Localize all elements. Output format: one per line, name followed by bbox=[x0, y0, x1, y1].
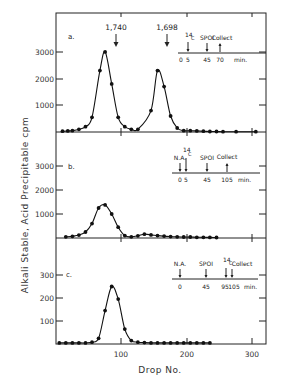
svg-text:SPOI: SPOI bbox=[200, 154, 214, 161]
data-point bbox=[71, 129, 75, 133]
data-point bbox=[123, 125, 127, 129]
data-point bbox=[103, 203, 107, 207]
data-point bbox=[103, 309, 107, 313]
data-point bbox=[77, 233, 81, 237]
data-point bbox=[66, 129, 70, 133]
data-point bbox=[110, 285, 114, 289]
data-point bbox=[195, 341, 199, 345]
panel-a-tag: a. bbox=[68, 33, 75, 41]
data-point bbox=[97, 206, 101, 210]
data-point bbox=[129, 127, 133, 131]
svg-text:45: 45 bbox=[203, 176, 211, 183]
data-point bbox=[110, 212, 114, 216]
svg-text:0: 0 bbox=[179, 56, 183, 63]
peak-label-1698: 1,698 bbox=[156, 23, 178, 32]
data-point bbox=[156, 341, 160, 345]
data-point bbox=[129, 339, 133, 343]
data-point bbox=[149, 341, 153, 345]
data-point bbox=[103, 50, 107, 54]
xtick-100: 100 bbox=[114, 350, 129, 359]
data-point bbox=[84, 230, 88, 234]
data-point bbox=[90, 222, 94, 226]
data-point bbox=[202, 235, 206, 239]
panel-a-timeline-inset: 14 C SPOI Collect 0 5 45 70 min. bbox=[178, 31, 266, 63]
panel-a-series bbox=[61, 50, 258, 134]
panel-a-ytick-1000: 1000 bbox=[35, 101, 54, 110]
arrowhead-icon bbox=[165, 42, 170, 47]
panel-b-timeline-inset: N.A. 14 C SPOI Collect 0 5 45 105 min. bbox=[172, 146, 260, 183]
data-point bbox=[71, 234, 75, 238]
data-point bbox=[110, 82, 114, 86]
y-axis-label: Alkali Stable, Acid Precipitable cpm bbox=[20, 117, 30, 293]
data-point bbox=[77, 127, 81, 131]
data-point bbox=[175, 126, 179, 130]
svg-text:70: 70 bbox=[216, 56, 224, 63]
data-point bbox=[149, 109, 153, 113]
data-point bbox=[169, 114, 173, 118]
data-point bbox=[221, 130, 225, 134]
svg-text:45: 45 bbox=[203, 56, 211, 63]
data-point bbox=[202, 129, 206, 133]
data-point bbox=[208, 236, 212, 240]
svg-text:C: C bbox=[191, 35, 195, 41]
x-axis-label: Drop No. bbox=[138, 365, 181, 375]
svg-text:45: 45 bbox=[202, 283, 210, 290]
data-point bbox=[182, 129, 186, 133]
data-point bbox=[162, 341, 166, 345]
svg-text:N.A.: N.A. bbox=[174, 260, 186, 267]
data-point bbox=[162, 234, 166, 238]
data-point bbox=[156, 69, 160, 73]
panel-b-ytick-2000: 2000 bbox=[35, 186, 54, 195]
peak-label-1740: 1,740 bbox=[105, 23, 127, 32]
svg-text:5: 5 bbox=[186, 56, 190, 63]
panel-b-series bbox=[64, 203, 219, 239]
data-point bbox=[123, 327, 127, 331]
data-point bbox=[215, 236, 219, 240]
svg-text:SPOI: SPOI bbox=[199, 260, 213, 267]
data-point bbox=[175, 341, 179, 345]
data-curve bbox=[63, 52, 256, 132]
data-point bbox=[136, 234, 140, 238]
data-point bbox=[116, 115, 120, 119]
data-point bbox=[57, 341, 61, 345]
data-point bbox=[156, 234, 160, 238]
data-point bbox=[254, 130, 258, 134]
data-point bbox=[61, 129, 65, 133]
data-point bbox=[162, 85, 166, 89]
data-point bbox=[90, 340, 94, 344]
panel-a-ytick-2000: 2000 bbox=[35, 75, 54, 84]
panel-b-ytick-3000: 3000 bbox=[35, 162, 54, 171]
panel-c-ytick-100: 100 bbox=[40, 317, 55, 326]
svg-text:0: 0 bbox=[178, 176, 182, 183]
xtick-300: 300 bbox=[245, 350, 260, 359]
panel-c-timeline-inset: N.A. SPOI 14 C Collect 0 45 95 105 min. bbox=[172, 256, 258, 290]
svg-text:0: 0 bbox=[178, 283, 182, 290]
data-point bbox=[116, 297, 120, 301]
y-ticks bbox=[56, 52, 266, 321]
data-point bbox=[234, 130, 238, 134]
data-point bbox=[71, 341, 75, 345]
panel-c-tag: c. bbox=[66, 271, 72, 279]
data-point bbox=[97, 336, 101, 340]
data-point bbox=[188, 129, 192, 133]
svg-text:105: 105 bbox=[228, 283, 240, 290]
svg-text:min.: min. bbox=[244, 283, 257, 290]
data-point bbox=[116, 225, 120, 229]
panel-b-tag: b. bbox=[68, 163, 75, 171]
panel-b-ytick-1000: 1000 bbox=[35, 210, 54, 219]
data-point bbox=[188, 235, 192, 239]
data-point bbox=[149, 233, 153, 237]
data-point bbox=[98, 69, 102, 73]
data-point bbox=[169, 235, 173, 239]
xtick-200: 200 bbox=[180, 350, 195, 359]
data-curve bbox=[59, 286, 210, 343]
data-point bbox=[195, 129, 199, 133]
data-point bbox=[175, 235, 179, 239]
panel-a-ytick-3000: 3000 bbox=[35, 48, 54, 57]
data-point bbox=[77, 341, 81, 345]
data-point bbox=[136, 127, 140, 131]
data-point bbox=[169, 341, 173, 345]
data-point bbox=[143, 341, 147, 345]
svg-text:105: 105 bbox=[221, 176, 233, 183]
data-point bbox=[182, 341, 186, 345]
